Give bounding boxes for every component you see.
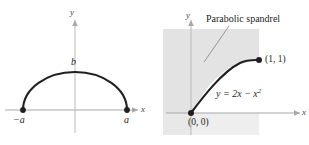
apex-label: b [71, 57, 76, 67]
shaded-region-left [163, 29, 191, 113]
point-1-1-label: (1, 1) [265, 55, 286, 65]
left-endpoint-label: −a [13, 115, 25, 125]
right-x-axis-label: x [302, 108, 306, 117]
left-x-axis-label: x [141, 105, 145, 114]
left-arc-endpoint-dot-right [124, 107, 130, 113]
right-endpoint-label: a [124, 115, 129, 125]
origin-point-dot [188, 110, 194, 116]
point-1-1-dot [256, 57, 262, 63]
origin-point-label: (0, 0) [188, 118, 209, 128]
left-y-axis-arrowhead [72, 20, 78, 26]
right-y-axis-label: y [186, 11, 190, 20]
parabola-equation: y = 2x − x2 [216, 88, 261, 99]
shaded-region-lower-left [163, 113, 191, 135]
right-y-axis-arrowhead [188, 20, 194, 26]
figure-container: y x −a a b y x Parabolic spandrel (1, 1)… [0, 0, 309, 145]
left-arc-endpoint-dot-left [20, 107, 26, 113]
right-x-axis-arrowhead [294, 110, 300, 116]
left-x-axis-arrowhead [132, 107, 138, 113]
parabolic-spandrel-caption: Parabolic spandrel [206, 14, 280, 24]
parabola-equation-exponent: 2 [258, 87, 262, 95]
parabola-equation-base: y = 2x − x [216, 88, 258, 99]
left-y-axis-label: y [70, 8, 74, 17]
